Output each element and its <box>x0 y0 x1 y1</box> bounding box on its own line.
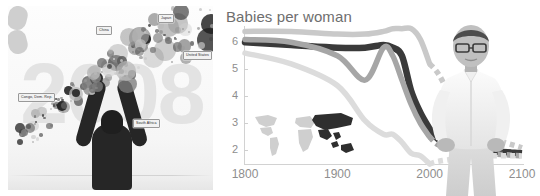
data-bubble <box>199 8 202 11</box>
data-bubble <box>182 28 184 30</box>
country-label-japan[interactable]: Japan <box>158 14 174 23</box>
bubble-chart-stage: 2008 ChinaJapanUnited StatesCongo, Dem. … <box>8 6 213 190</box>
presenter-photo <box>410 20 530 196</box>
country-label-congo-dem-rep[interactable]: Congo, Dem. Rep. <box>18 93 55 102</box>
data-bubble <box>70 100 72 102</box>
data-bubble <box>32 141 34 143</box>
data-bubble <box>116 61 136 81</box>
data-bubble <box>17 139 23 145</box>
data-bubble <box>25 123 35 133</box>
data-bubble <box>135 47 144 56</box>
data-bubble <box>171 6 175 10</box>
data-bubble <box>171 61 173 63</box>
data-bubble <box>209 9 211 11</box>
data-bubble <box>107 64 112 69</box>
data-bubble <box>70 82 74 86</box>
data-bubble <box>39 133 42 136</box>
country-label-south-africa[interactable]: South Africa <box>133 119 160 128</box>
series-line-europe <box>245 53 430 164</box>
data-bubble <box>113 58 115 60</box>
data-bubble <box>159 30 163 34</box>
left-panel: 2008 ChinaJapanUnited StatesCongo, Dem. … <box>0 0 216 196</box>
data-bubble <box>50 124 53 127</box>
data-bubble <box>139 56 142 59</box>
data-bubble <box>210 24 213 28</box>
data-bubble <box>34 123 36 125</box>
country-label-china[interactable]: China <box>96 26 112 35</box>
data-bubble <box>132 27 149 44</box>
data-bubble <box>72 89 80 97</box>
data-bubble <box>197 27 200 30</box>
data-bubble <box>174 38 177 41</box>
data-bubble <box>36 137 39 140</box>
data-bubble <box>179 23 192 36</box>
data-bubble <box>137 66 140 69</box>
country-label-united-states[interactable]: United States <box>183 51 212 60</box>
data-bubble <box>50 108 52 110</box>
data-bubble <box>92 81 103 92</box>
data-bubble <box>43 117 45 119</box>
right-panel: Babies per woman 23456 1800190020002100 <box>216 0 534 196</box>
data-bubble <box>31 135 35 139</box>
